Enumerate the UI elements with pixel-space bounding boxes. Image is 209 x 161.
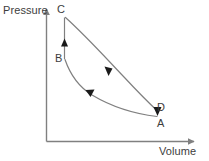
point-label-b: B: [55, 52, 62, 64]
volume-axis-label: Volume: [159, 145, 196, 157]
pv-cycle-figure: Pressure Volume C B D A: [0, 0, 209, 161]
pv-diagram-canvas: [0, 0, 209, 161]
process-curve-c-to-d: [66, 18, 158, 112]
pressure-axis-label: Pressure: [3, 4, 48, 16]
arrowhead-c-to-d: [105, 67, 113, 77]
process-curve-a-to-b: [65, 60, 157, 117]
point-label-a: A: [157, 117, 164, 129]
point-label-c: C: [57, 3, 65, 15]
arrowhead-b-to-c: [61, 39, 68, 47]
point-label-d: D: [157, 101, 165, 113]
